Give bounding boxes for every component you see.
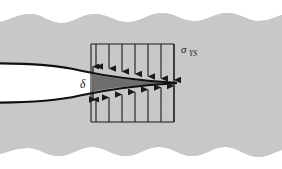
figure-canvas: δ σ YS	[0, 0, 282, 169]
yield-stress-label: σ	[181, 43, 187, 55]
specimen-body	[0, 0, 282, 169]
yield-stress-subscript: YS	[189, 49, 197, 58]
ctod-label: δ	[80, 78, 86, 90]
strip-yield-diagram: δ σ YS	[0, 0, 282, 169]
